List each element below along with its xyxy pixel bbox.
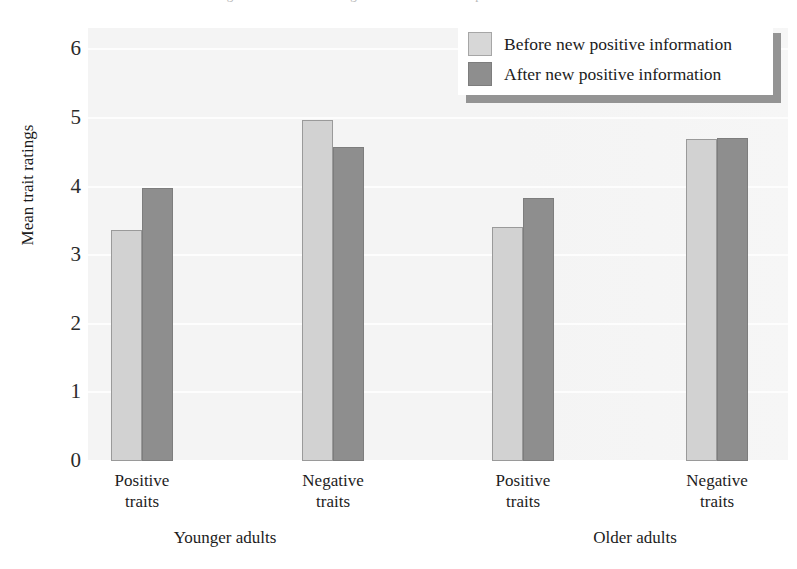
y-tick-2: 2 — [55, 313, 81, 334]
category-line-2: traits — [642, 491, 792, 512]
category-label-older-positive: Positive traits — [448, 470, 598, 512]
bar-younger-negative-before — [302, 120, 333, 461]
bar-older-positive-after — [523, 198, 554, 461]
bar-younger-positive-before — [111, 230, 142, 461]
gridline-1 — [88, 391, 788, 393]
legend-label-after: After new positive information — [504, 64, 721, 85]
chart-figure: 6 5 4 3 2 1 0 Mean trait ratings Positiv… — [0, 0, 797, 569]
legend-item-after: After new positive information — [468, 59, 721, 89]
category-line-1: Positive — [448, 470, 598, 491]
category-label-younger-negative: Negative traits — [258, 470, 408, 512]
category-line-2: traits — [67, 491, 217, 512]
category-label-older-negative: Negative traits — [642, 470, 792, 512]
y-tick-0: 0 — [55, 450, 81, 471]
y-tick-6: 6 — [55, 38, 81, 59]
y-tick-1: 1 — [55, 381, 81, 402]
bar-older-negative-before — [686, 139, 717, 461]
gridline-3 — [88, 254, 788, 256]
category-line-1: Positive — [67, 470, 217, 491]
y-tick-4: 4 — [55, 176, 81, 197]
y-tick-5: 5 — [55, 107, 81, 128]
gridline-2 — [88, 323, 788, 325]
bar-older-positive-before — [492, 227, 523, 461]
gridline-4 — [88, 186, 788, 188]
category-label-younger-positive: Positive traits — [67, 470, 217, 512]
category-line-2: traits — [448, 491, 598, 512]
legend-label-before: Before new positive information — [504, 34, 732, 55]
y-tick-3: 3 — [55, 244, 81, 265]
category-line-2: traits — [258, 491, 408, 512]
gridline-5 — [88, 117, 788, 119]
legend-swatch-before-icon — [468, 32, 492, 56]
group-label-older-adults: Older adults — [525, 528, 745, 548]
category-line-1: Negative — [258, 470, 408, 491]
y-axis-title: Mean trait ratings — [18, 95, 38, 275]
legend-item-before: Before new positive information — [468, 29, 732, 59]
group-label-younger-adults: Younger adults — [115, 528, 335, 548]
category-line-1: Negative — [642, 470, 792, 491]
chart-legend: Before new positive information After ne… — [458, 25, 773, 95]
legend-swatch-after-icon — [468, 62, 492, 86]
bar-younger-negative-after — [333, 147, 364, 461]
bar-older-negative-after — [717, 138, 748, 461]
bar-younger-positive-after — [142, 188, 173, 461]
